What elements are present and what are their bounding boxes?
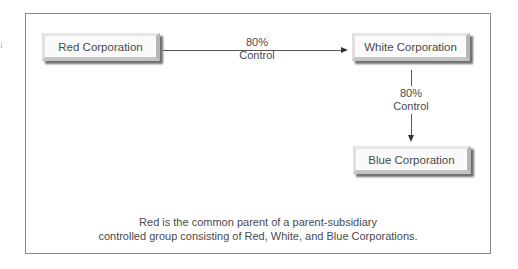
edge-control: Control [222, 49, 292, 62]
edge-label-white-blue: 80% Control [376, 87, 446, 113]
node-white-corporation: White Corporation [352, 33, 470, 61]
edge-label-red-white: 80% Control [222, 36, 292, 62]
edge-percent: 80% [376, 87, 446, 100]
edge-control: Control [376, 100, 446, 113]
edge-mark [1, 43, 4, 48]
arrow-down-icon [408, 135, 414, 142]
caption-line-2: controlled group consisting of Red, Whit… [25, 229, 491, 243]
edge-percent: 80% [222, 36, 292, 49]
edge-white-blue-line-bottom [411, 114, 412, 137]
edge-white-blue-line-top [411, 70, 412, 86]
node-label: White Corporation [364, 41, 457, 53]
node-red-corporation: Red Corporation [42, 33, 160, 61]
node-label: Red Corporation [58, 41, 142, 53]
node-blue-corporation: Blue Corporation [353, 146, 471, 174]
caption: Red is the common parent of a parent-sub… [25, 215, 491, 243]
node-label: Blue Corporation [368, 154, 454, 166]
caption-line-1: Red is the common parent of a parent-sub… [25, 215, 491, 229]
arrow-right-icon [341, 47, 348, 53]
